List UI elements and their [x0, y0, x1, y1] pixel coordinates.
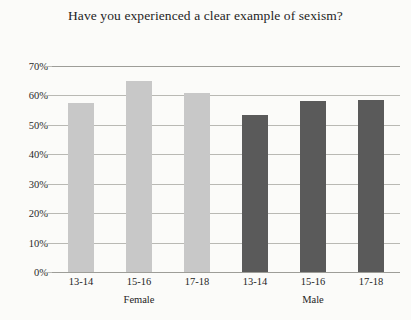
x-tick-label: 13-14 — [52, 276, 110, 287]
x-tick-label: 15-16 — [110, 276, 168, 287]
bar-female-15-16 — [126, 81, 152, 272]
y-tick-mark — [44, 154, 52, 155]
bar-chart: Have you experienced a clear example of … — [0, 0, 411, 320]
y-tick-mark — [44, 213, 52, 214]
y-tick-label: 0% — [4, 267, 48, 278]
plot-area — [52, 66, 400, 272]
y-axis: 0%10%20%30%40%50%60%70% — [0, 66, 48, 272]
y-tick-mark — [44, 272, 52, 273]
gridline — [52, 272, 400, 273]
y-tick-mark — [44, 125, 52, 126]
x-tick-label: 13-14 — [226, 276, 284, 287]
y-tick-label: 40% — [4, 149, 48, 160]
group-label-male: Male — [268, 294, 358, 305]
x-tick-label: 17-18 — [168, 276, 226, 287]
y-tick-label: 70% — [4, 61, 48, 72]
y-tick-label: 60% — [4, 90, 48, 101]
y-tick-label: 10% — [4, 237, 48, 248]
chart-title: Have you experienced a clear example of … — [0, 8, 411, 24]
bars-group — [52, 66, 400, 272]
bar-female-13-14 — [68, 103, 94, 272]
bar-male-13-14 — [242, 115, 268, 272]
y-tick-mark — [44, 95, 52, 96]
y-tick-mark — [44, 243, 52, 244]
x-tick-label: 17-18 — [342, 276, 400, 287]
y-tick-label: 30% — [4, 178, 48, 189]
y-tick-label: 20% — [4, 208, 48, 219]
x-axis: 13-1415-1617-1813-1415-1617-18FemaleMale — [52, 274, 400, 318]
x-tick-label: 15-16 — [284, 276, 342, 287]
y-tick-label: 50% — [4, 119, 48, 130]
bar-female-17-18 — [184, 93, 210, 273]
y-tick-mark — [44, 66, 52, 67]
bar-male-15-16 — [300, 101, 326, 272]
group-label-female: Female — [94, 294, 184, 305]
y-tick-mark — [44, 184, 52, 185]
bar-male-17-18 — [358, 100, 384, 272]
